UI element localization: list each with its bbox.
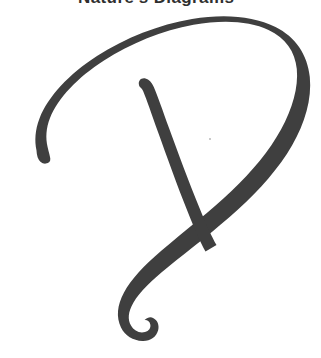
ink-drawing xyxy=(0,0,321,358)
scan-speck xyxy=(209,138,211,140)
running-head-clip: Nature's Diagrams xyxy=(0,0,321,7)
outer-loop-stroke xyxy=(35,16,310,341)
inner-diagonal-stroke xyxy=(139,78,217,251)
running-head-text: Nature's Diagrams xyxy=(78,0,234,7)
scanned-page: Nature's Diagrams xyxy=(0,0,321,358)
